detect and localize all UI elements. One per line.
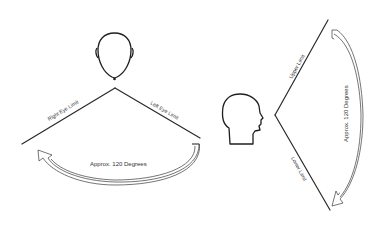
- upper-limit-line: [275, 20, 328, 115]
- field-of-view-diagram: Right Eye Limit Left Eye Limit Approx. 1…: [0, 0, 385, 227]
- horizontal-angle-label: Approx. 120 Degrees: [90, 161, 147, 167]
- right-eye-limit-line: [22, 88, 115, 144]
- horizontal-field-of-view-panel: Right Eye Limit Left Eye Limit Approx. 1…: [22, 33, 200, 185]
- left-eye-limit-line: [115, 88, 200, 138]
- vertical-field-of-view-panel: Upper Limit Lower Limit Approx. 120 Degr…: [223, 20, 363, 210]
- nose-marker-icon: [113, 78, 116, 81]
- lower-limit-line: [275, 115, 330, 210]
- right-eye-limit-label: Right Eye Limit: [46, 98, 79, 121]
- head-top-view-icon: [96, 33, 133, 80]
- head-side-profile-icon: [223, 94, 263, 144]
- vertical-angle-label: Approx. 120 Degrees: [343, 85, 349, 142]
